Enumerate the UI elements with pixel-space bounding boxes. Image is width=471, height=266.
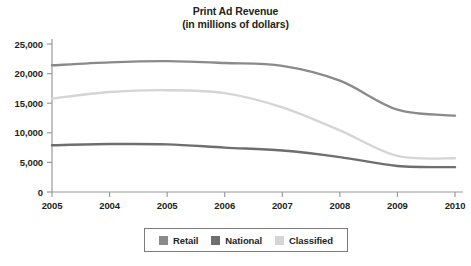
x-axis-tick-label: 2009: [387, 200, 408, 211]
legend-label-classified: Classified: [289, 235, 333, 246]
y-axis-tick-label: 20,000: [15, 68, 43, 79]
x-axis-tick-label: 2010: [445, 200, 466, 211]
legend-item-national: National: [211, 235, 262, 246]
series-line-retail: [52, 61, 455, 115]
x-axis-tick-label: 2006: [214, 200, 235, 211]
x-axis-tick-label: 2005: [42, 200, 64, 211]
x-axis-tick-label: 2004: [99, 200, 121, 211]
y-axis-tick-label: 10,000: [15, 127, 43, 138]
legend-swatch-retail: [159, 236, 168, 245]
x-axis-tick-labels: 20052004200520062007200820092010: [42, 200, 466, 211]
legend-item-retail: Retail: [159, 235, 198, 246]
legend-label-retail: Retail: [173, 235, 198, 246]
chart-legend: Retail National Classified: [144, 228, 348, 252]
x-axis-tick-label: 2007: [272, 200, 293, 211]
y-axis-tick-label: 5,000: [20, 157, 43, 168]
y-axis-tick-label: 0: [38, 187, 43, 198]
y-axis-tick-label: 25,000: [15, 39, 43, 50]
legend-swatch-national: [211, 236, 220, 245]
legend-item-classified: Classified: [275, 235, 333, 246]
legend-label-national: National: [225, 235, 262, 246]
y-axis-tick-label: 15,000: [15, 98, 43, 109]
x-axis-tick-label: 2005: [157, 200, 179, 211]
plot-area: 05,00010,00015,00020,00025,000 200520042…: [0, 0, 471, 266]
y-axis-tick-labels: 05,00010,00015,00020,00025,000: [15, 39, 43, 198]
x-axis-ticks: [52, 192, 455, 197]
print-ad-revenue-chart: Print Ad Revenue (in millions of dollars…: [0, 0, 471, 266]
x-axis-tick-label: 2008: [329, 200, 350, 211]
data-series-group: [52, 61, 455, 167]
legend-swatch-classified: [275, 236, 284, 245]
